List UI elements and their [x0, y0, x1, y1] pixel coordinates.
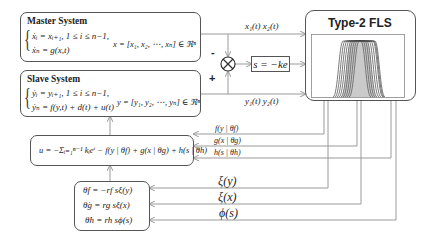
minus-sign: -: [211, 46, 215, 58]
master-state: x = [x₁, x₂, ⋯, xₙ] ∈ ℜⁿ: [113, 39, 196, 49]
master-system-block: Master System { ẋᵢ = xᵢ₊₁, 1 ≤ i ≤ n−1, …: [20, 12, 201, 62]
f-estimate-label: f(y | θf): [215, 124, 238, 133]
control-law-equation: u = −Σᵢ₌₁ⁿ⁻¹ kᵢeⁱ − f(y | θf) + g(x | θg…: [39, 145, 207, 155]
slave-state: y = [y₁, y₂, ⋯, yₙ] ∈ ℜⁿ: [117, 97, 200, 107]
h-estimate-label: h(s | θh): [214, 148, 241, 157]
master-eq1: ẋᵢ = xᵢ₊₁, 1 ≤ i ≤ n−1,: [32, 31, 109, 41]
adaptive-law-f: θ̇f = −rf sξ(y): [83, 185, 132, 195]
plus-sign: +: [209, 72, 215, 84]
sliding-surface-block: s = −ke: [251, 56, 290, 72]
xi-x-label: ξ(x): [218, 190, 236, 205]
adaptive-law-h: θ̇h = rh sϕ(s): [85, 215, 132, 225]
slave-eq2: ẏₙ = f(y,t) + d(t) + u(t): [32, 102, 114, 112]
slave-system-title: Slave System: [27, 74, 80, 84]
membership-function-plot: [311, 34, 405, 98]
master-eq2: ẋₙ = g(x,t): [32, 45, 69, 55]
phi-s-label: ϕ(s): [219, 206, 238, 221]
slave-eq1: ẏᵢ = yᵢ₊₁, 1 ≤ i ≤ n−1,: [32, 88, 109, 98]
xi-y-label: ξ(y): [218, 174, 236, 189]
fls-title: Type-2 FLS: [328, 16, 392, 30]
slave-brace: {: [24, 84, 31, 110]
master-output-label: x₁(t) x₂(t): [245, 21, 279, 31]
slave-system-block: Slave System { ẏᵢ = yᵢ₊₁, 1 ≤ i ≤ n−1, ẏ…: [20, 70, 201, 117]
summing-junction: [221, 57, 235, 71]
adaptive-law-block: θ̇f = −rf sξ(y) θ̇g = rg sξ(x) θ̇h = rh …: [74, 181, 150, 231]
slave-output-label: y₁(t) y₂(t): [245, 96, 279, 106]
master-system-title: Master System: [27, 16, 87, 26]
adaptive-law-g: θ̇g = rg sξ(x): [83, 200, 130, 210]
control-law-block: u = −Σᵢ₌₁ⁿ⁻¹ kᵢeⁱ − f(y | θf) + g(x | θg…: [30, 135, 194, 166]
master-brace: {: [24, 26, 31, 52]
type2-fls-block: Type-2 FLS: [305, 10, 416, 101]
g-estimate-label: g(x | θg): [214, 136, 241, 145]
